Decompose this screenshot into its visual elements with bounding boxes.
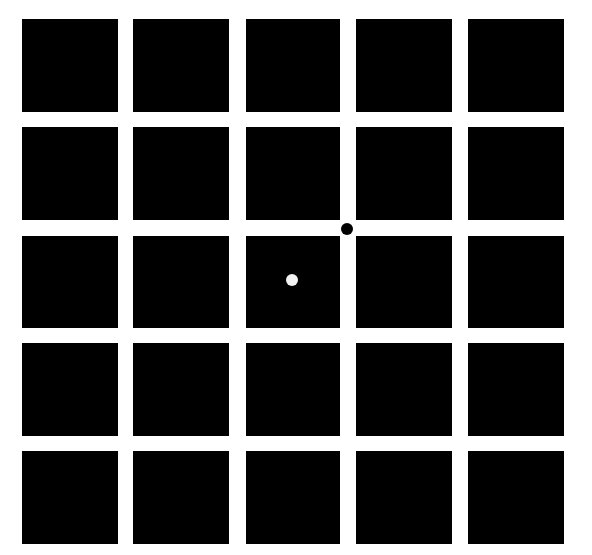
grid-square-r5-c4 <box>356 451 452 544</box>
grid-square-r2-c3 <box>246 127 340 220</box>
illusion-canvas <box>0 0 592 555</box>
white-dot <box>286 274 298 286</box>
grid-square-r1-c2 <box>133 19 229 112</box>
grid-square-r2-c5 <box>468 127 564 220</box>
black-dot <box>341 223 353 235</box>
grid-square-r5-c1 <box>22 451 118 544</box>
grid-square-r2-c2 <box>133 127 229 220</box>
grid-square-r3-c1 <box>22 236 118 328</box>
grid-square-r4-c3 <box>246 343 340 436</box>
grid-square-r5-c3 <box>246 451 340 544</box>
grid-square-r1-c4 <box>356 19 452 112</box>
grid-square-r4-c5 <box>468 343 564 436</box>
grid-square-r1-c1 <box>22 19 118 112</box>
grid-square-r1-c5 <box>468 19 564 112</box>
grid-square-r3-c4 <box>356 236 452 328</box>
grid-square-r4-c1 <box>22 343 118 436</box>
grid-square-r3-c2 <box>133 236 229 328</box>
grid-square-r2-c4 <box>356 127 452 220</box>
grid-square-r5-c5 <box>468 451 564 544</box>
grid-square-r2-c1 <box>22 127 118 220</box>
grid-square-r4-c2 <box>133 343 229 436</box>
grid-square-r5-c2 <box>133 451 229 544</box>
grid-square-r3-c5 <box>468 236 564 328</box>
grid-square-r4-c4 <box>356 343 452 436</box>
grid-square-r1-c3 <box>246 19 340 112</box>
